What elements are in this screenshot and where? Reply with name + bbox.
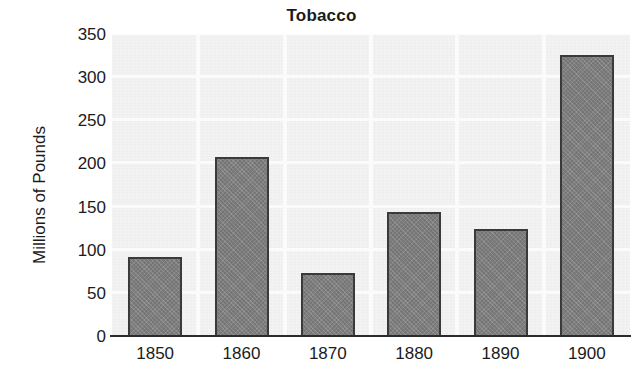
y-tick-250: 250: [60, 112, 106, 129]
y-tick-0: 0: [60, 328, 106, 345]
gridline-v-3: [369, 34, 373, 336]
plot-area: [112, 34, 630, 336]
y-tick-350: 350: [60, 26, 106, 43]
y-axis-label: Millions of Pounds: [30, 65, 50, 325]
bar-1880: [387, 212, 441, 336]
x-tick-1860: 1860: [198, 345, 284, 362]
x-axis-line: [110, 335, 631, 337]
y-tick-300: 300: [60, 69, 106, 86]
gridline-v-2: [283, 34, 287, 336]
gridline-v-1: [196, 34, 200, 336]
x-tick-1850: 1850: [112, 345, 198, 362]
gridline-v-4: [455, 34, 459, 336]
tobacco-bar-chart: Tobacco Millions of Pounds 0501001502002…: [0, 0, 643, 387]
bar-1870: [301, 273, 355, 336]
x-tick-1870: 1870: [285, 345, 371, 362]
bar-1860: [215, 157, 269, 336]
x-tick-1900: 1900: [544, 345, 630, 362]
x-tick-1880: 1880: [371, 345, 457, 362]
x-axis-tick-labels: 185018601870188018901900: [112, 345, 630, 371]
y-tick-100: 100: [60, 242, 106, 259]
y-tick-150: 150: [60, 199, 106, 216]
y-tick-200: 200: [60, 155, 106, 172]
bar-1850: [128, 257, 182, 336]
bar-1900: [560, 55, 614, 336]
y-axis-tick-labels: 050100150200250300350: [54, 0, 106, 387]
bar-1890: [474, 229, 528, 336]
gridline-v-5: [542, 34, 546, 336]
x-tick-1890: 1890: [457, 345, 543, 362]
y-tick-50: 50: [60, 285, 106, 302]
